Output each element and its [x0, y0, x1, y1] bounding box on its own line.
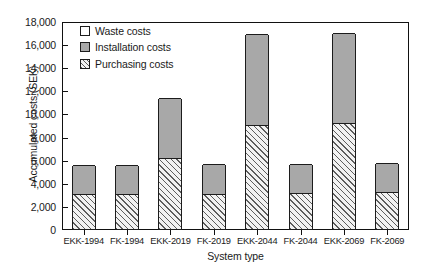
stacked-bar	[115, 166, 139, 230]
stacked-bar	[375, 164, 399, 230]
legend-swatch-icon	[80, 59, 90, 69]
x-tick-label: FK-2019	[197, 236, 231, 246]
bar-segment-installation	[73, 165, 95, 194]
stacked-bar	[72, 166, 96, 230]
x-tick-label: EKK-1994	[63, 236, 103, 246]
stacked-bar	[158, 99, 182, 230]
x-tick-mark	[127, 230, 128, 235]
bar-group	[375, 22, 399, 230]
y-tick-label: 10,000	[25, 108, 56, 120]
bar-group	[202, 22, 226, 230]
legend-item: Purchasing costs	[80, 57, 173, 70]
y-tick-label: 6,000	[31, 155, 56, 167]
bar-segment-installation	[116, 165, 138, 195]
bar-segment-purchasing	[333, 124, 355, 229]
bar-segment-installation	[333, 33, 355, 125]
x-tick-label: EKK-2044	[237, 236, 277, 246]
y-tick-label: 12,000	[25, 85, 56, 97]
bar-segment-installation	[159, 98, 181, 158]
stacked-bar	[202, 165, 226, 230]
bar-segment-purchasing	[116, 195, 138, 229]
legend-item-label: Purchasing costs	[95, 58, 173, 70]
bar-segment-purchasing	[203, 195, 225, 229]
bar-group	[289, 22, 313, 230]
y-tick-label: 4,000	[31, 178, 56, 190]
y-tick-label: 0	[50, 224, 56, 236]
x-tick-mark	[257, 230, 258, 235]
y-tick-label: 8,000	[31, 132, 56, 144]
y-tick-label: 18,000	[25, 16, 56, 28]
bar-group	[332, 22, 356, 230]
x-tick-mark	[387, 230, 388, 235]
bar-group	[245, 22, 269, 230]
x-tick-mark	[170, 230, 171, 235]
legend-item-label: Waste costs	[95, 25, 151, 37]
bar-segment-purchasing	[246, 126, 268, 229]
legend-swatch-icon	[80, 42, 90, 52]
legend-item: Installation costs	[80, 41, 173, 54]
bar-segment-installation	[290, 164, 312, 193]
bar-segment-purchasing	[290, 194, 312, 229]
x-tick-label: FK-1994	[110, 236, 144, 246]
stacked-bar	[332, 34, 356, 230]
y-axis-title: Accumulated costs (SEK)	[27, 29, 39, 219]
stacked-bar	[289, 165, 313, 230]
legend-item: Waste costs	[80, 24, 173, 37]
y-tick-label: 2,000	[31, 201, 56, 213]
x-tick-label: EKK-2019	[150, 236, 190, 246]
x-tick-mark	[301, 230, 302, 235]
x-tick-mark	[344, 230, 345, 235]
legend-item-label: Installation costs	[95, 41, 171, 53]
x-tick-label: EKK-2069	[324, 236, 364, 246]
bar-segment-installation	[376, 163, 398, 194]
y-tick-label: 16,000	[25, 39, 56, 51]
x-axis-title: System type	[62, 250, 409, 262]
bar-segment-installation	[246, 34, 268, 126]
bar-segment-purchasing	[73, 195, 95, 229]
stacked-bar	[245, 35, 269, 230]
y-tick-label: 14,000	[25, 62, 56, 74]
bar-chart: Accumulated costs (SEK) 02,0004,0006,000…	[0, 0, 427, 272]
bar-segment-installation	[203, 164, 225, 195]
bar-segment-purchasing	[376, 193, 398, 229]
x-tick-label: FK-2069	[370, 236, 404, 246]
chart-legend: Waste costsInstallation costsPurchasing …	[80, 24, 173, 70]
x-tick-label: FK-2044	[284, 236, 318, 246]
bar-segment-purchasing	[159, 159, 181, 229]
x-tick-mark	[84, 230, 85, 235]
x-tick-mark	[214, 230, 215, 235]
legend-swatch-icon	[80, 26, 90, 36]
